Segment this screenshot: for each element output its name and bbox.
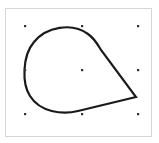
resize-handle-top-right[interactable] — [137, 25, 139, 27]
resize-handle-middle-left[interactable] — [24, 69, 26, 71]
resize-handle-center[interactable] — [81, 69, 83, 71]
resize-handle-top-center[interactable] — [81, 25, 83, 27]
resize-handle-bottom-right[interactable] — [137, 113, 139, 115]
teardrop-shape[interactable] — [24, 27, 136, 112]
resize-handle-top-left[interactable] — [24, 25, 26, 27]
resize-handle-bottom-center[interactable] — [81, 113, 83, 115]
resize-handle-middle-right[interactable] — [137, 69, 139, 71]
drawing-canvas[interactable] — [0, 0, 159, 143]
resize-handle-bottom-left[interactable] — [24, 113, 26, 115]
